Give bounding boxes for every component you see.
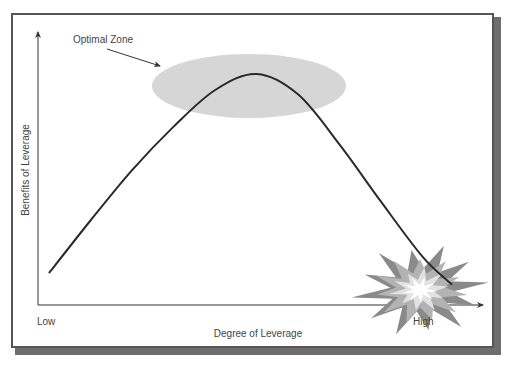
leverage-diagram: Optimal Zone Low High Degree of Leverage… — [0, 0, 511, 371]
optimal-zone-ellipse — [152, 54, 346, 118]
x-axis-label: Degree of Leverage — [214, 328, 303, 339]
x-tick-low: Low — [37, 316, 56, 327]
x-tick-high: High — [413, 316, 434, 327]
optimal-zone-arrow — [107, 49, 160, 66]
y-axis-label: Benefits of Leverage — [20, 124, 31, 216]
annotation-optimal-zone: Optimal Zone — [73, 34, 133, 45]
